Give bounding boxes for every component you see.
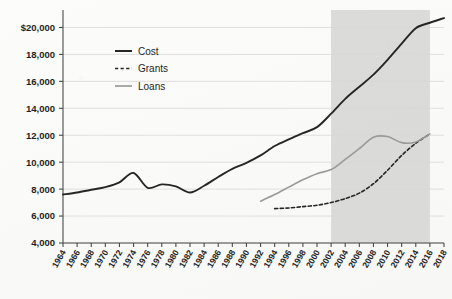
legend-label-loans: Loans	[138, 81, 165, 92]
y-axis-tick-label: 12,000	[26, 130, 55, 141]
y-axis-tick-label: $20,000	[21, 22, 55, 33]
shaded-region	[331, 10, 430, 243]
y-axis-tick-label: 6,000	[31, 210, 55, 221]
legend-label-grants: Grants	[138, 63, 168, 74]
y-axis-tick-label: 16,000	[26, 76, 55, 87]
y-axis-tick-label: 8,000	[31, 184, 55, 195]
y-axis-tick-labels: 4,0006,0008,00010,00012,00014,00016,0001…	[21, 22, 63, 249]
y-axis-tick-label: 14,000	[26, 103, 55, 114]
y-axis-tick-label: 4,000	[31, 237, 55, 248]
legend-label-cost: Cost	[138, 46, 159, 57]
shaded-band-layer	[331, 10, 430, 243]
y-axis-tick-label: 10,000	[26, 157, 55, 168]
y-axis-tick-label: 18,000	[26, 49, 55, 60]
x-axis-tick-labels: 1964196619681970197219741976197819801982…	[50, 243, 449, 270]
x-axis-tick-label: 2018	[431, 248, 449, 270]
line-chart: 4,0006,0008,00010,00012,00014,00016,0001…	[0, 0, 452, 299]
chart-page: 4,0006,0008,00010,00012,00014,00016,0001…	[0, 0, 452, 299]
legend: CostGrantsLoans	[115, 46, 168, 92]
